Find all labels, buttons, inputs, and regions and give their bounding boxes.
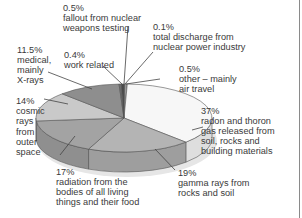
label-other: 0.5% other – mainly air travel xyxy=(179,64,237,94)
leader-fallout xyxy=(124,26,128,84)
leader-medical xyxy=(48,72,92,89)
label-medical: 11.5% medical, mainly X-rays xyxy=(17,45,51,85)
label-gamma: 19% gamma rays from rocks and soil xyxy=(178,168,249,198)
pie-tops xyxy=(36,84,212,152)
label-bodies: 17% radiation from the bodies of all liv… xyxy=(56,167,139,207)
label-cosmic: 14% cosmic rays from outer space xyxy=(16,96,45,157)
leader-nuclear-power xyxy=(125,52,153,84)
label-nuclear-power: 0.1% total discharge from nuclear power … xyxy=(153,22,245,52)
label-work: 0.4% work related xyxy=(64,50,114,70)
leader-other xyxy=(126,79,160,84)
right-border xyxy=(299,0,300,218)
label-radon: 37% radon and thoron gas released from s… xyxy=(201,106,275,156)
label-fallout: 0.5% fallout from nuclear weapons testin… xyxy=(63,3,141,33)
